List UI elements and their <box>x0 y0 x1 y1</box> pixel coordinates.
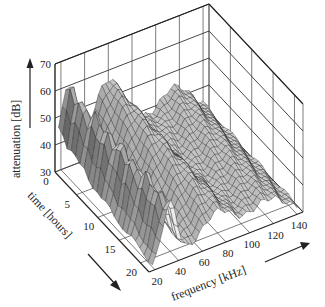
frequency-tick-label: 60 <box>199 256 211 268</box>
time-arrow-head <box>110 280 121 291</box>
frequency-tick-label: 20 <box>151 275 163 287</box>
surface-chart: 3040506070 05101520 20406080100120140 at… <box>0 0 325 307</box>
frequency-tick-label: 80 <box>223 247 235 259</box>
top-edge <box>209 4 303 104</box>
time-tick-label: 0 <box>43 175 49 187</box>
frequency-arrow <box>265 246 302 262</box>
time-tick-label: 10 <box>83 220 95 232</box>
time-tick-label: 15 <box>105 243 117 255</box>
z-axis-label: attenuation [dB] <box>9 100 23 178</box>
time-axis-label: time [hours] <box>25 188 75 241</box>
z-tick-label: 60 <box>40 85 52 97</box>
right-wall-horizontal <box>209 31 303 131</box>
z-tick-label: 50 <box>40 112 52 124</box>
time-arrow <box>88 254 116 285</box>
time-tick-label: 5 <box>65 198 71 210</box>
frequency-tick-label: 120 <box>267 229 284 241</box>
z-tick-label: 70 <box>40 58 52 70</box>
frequency-arrow-head <box>300 242 310 250</box>
z-tick-label: 40 <box>40 139 52 151</box>
z-arrow-head <box>27 58 34 68</box>
frequency-tick-label: 100 <box>243 238 260 250</box>
frequency-tick-label: 40 <box>175 265 187 277</box>
frequency-tick-label: 140 <box>291 219 308 231</box>
time-tick-label: 20 <box>126 266 138 278</box>
surface-mesh <box>59 79 298 264</box>
z-tick-labels: 3040506070 <box>40 58 52 178</box>
